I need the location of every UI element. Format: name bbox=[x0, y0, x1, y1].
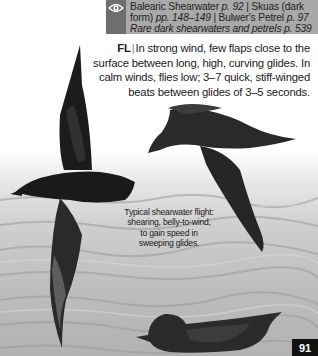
eye-icon bbox=[108, 2, 124, 14]
xref-page: p. 97 bbox=[287, 12, 309, 23]
book-page: Balearic Shearwater p. 92 | Skuas (dark … bbox=[0, 0, 318, 356]
cross-reference-text: Balearic Shearwater p. 92 | Skuas (dark … bbox=[130, 1, 316, 34]
xref-page: p. 92 bbox=[222, 1, 244, 12]
xref-skuas: Skuas (dark bbox=[251, 1, 304, 12]
cross-reference-box: Balearic Shearwater p. 92 | Skuas (dark … bbox=[106, 0, 318, 34]
eye-icon-column bbox=[106, 0, 126, 34]
xref-form: form) bbox=[130, 12, 156, 23]
xref-bulwers: Bulwer's Petrel bbox=[219, 12, 287, 23]
flight-label: FL bbox=[117, 42, 130, 54]
page-number: 91 bbox=[292, 339, 318, 356]
separator: | bbox=[211, 12, 219, 23]
xref-balearic: Balearic Shearwater bbox=[130, 1, 222, 12]
photo-caption: Typical shearwater flight: shearing, bel… bbox=[124, 207, 214, 249]
flight-description: FL|In strong wind, few flaps close to th… bbox=[90, 41, 310, 99]
xref-rare: Rare dark shearwaters and petrels p. 539 bbox=[130, 23, 316, 34]
xref-page: pp. 148–149 bbox=[156, 12, 211, 23]
